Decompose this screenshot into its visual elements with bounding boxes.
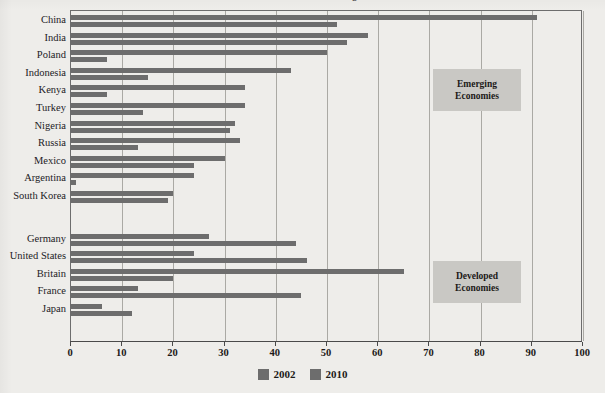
annotation-emerging-line2: Economies (455, 90, 499, 102)
gridline-90 (532, 11, 533, 341)
bar-chart: Global Ranking Emerging Economies Develo… (0, 0, 605, 393)
gridline-60 (378, 11, 379, 341)
legend-swatch-2002 (258, 369, 269, 380)
category-label-japan: Japan (0, 303, 66, 314)
bar-turkey-2002 (71, 110, 143, 115)
x-tick-label-20: 20 (157, 347, 187, 359)
bar-kenya-2002 (71, 92, 107, 97)
plot-area: Emerging Economies Developed Economies (70, 10, 582, 342)
bar-japan-2002 (71, 311, 132, 316)
x-tick-label-30: 30 (209, 347, 239, 359)
x-tick-0 (70, 342, 71, 346)
legend-item-2002: 2002 (258, 368, 296, 380)
category-label-france: France (0, 285, 66, 296)
category-label-argentina: Argentina (0, 172, 66, 183)
bar-china-2002 (71, 22, 337, 27)
bar-mexico-2002 (71, 163, 194, 168)
legend-label-2010: 2010 (326, 368, 348, 380)
x-tick-label-0: 0 (55, 347, 85, 359)
category-label-indonesia: Indonesia (0, 67, 66, 78)
annotation-emerging-economies: Emerging Economies (433, 69, 521, 111)
category-label-kenya: Kenya (0, 84, 66, 95)
x-tick-20 (172, 342, 173, 346)
chart-legend: 2002 2010 (0, 368, 605, 380)
bar-india-2010 (71, 33, 368, 38)
gridline-40 (276, 11, 277, 341)
bar-russia-2010 (71, 138, 240, 143)
category-label-poland: Poland (0, 49, 66, 60)
bar-united-states-2002 (71, 258, 307, 263)
bar-japan-2010 (71, 304, 102, 309)
x-tick-label-60: 60 (362, 347, 392, 359)
bar-united-states-2010 (71, 251, 194, 256)
gridline-50 (327, 11, 328, 341)
gridline-100 (583, 11, 584, 341)
legend-label-2002: 2002 (274, 368, 296, 380)
x-tick-40 (275, 342, 276, 346)
category-label-mexico: Mexico (0, 155, 66, 166)
x-tick-label-50: 50 (311, 347, 341, 359)
category-label-britain: Britain (0, 268, 66, 279)
x-tick-label-10: 10 (106, 347, 136, 359)
bar-south-korea-2010 (71, 191, 173, 196)
x-tick-70 (428, 342, 429, 346)
bar-mexico-2010 (71, 156, 225, 161)
x-tick-label-90: 90 (516, 347, 546, 359)
x-tick-label-40: 40 (260, 347, 290, 359)
x-tick-10 (121, 342, 122, 346)
bar-germany-2002 (71, 241, 296, 246)
category-label-india: India (0, 32, 66, 43)
category-label-united-states: United States (0, 250, 66, 261)
x-tick-label-100: 100 (567, 347, 597, 359)
category-label-germany: Germany (0, 233, 66, 244)
x-tick-100 (582, 342, 583, 346)
category-label-turkey: Turkey (0, 102, 66, 113)
category-label-nigeria: Nigeria (0, 120, 66, 131)
bar-germany-2010 (71, 234, 209, 239)
category-label-china: China (0, 14, 66, 25)
x-tick-30 (224, 342, 225, 346)
legend-swatch-2010 (310, 369, 321, 380)
bar-russia-2002 (71, 145, 138, 150)
x-tick-50 (326, 342, 327, 346)
bar-nigeria-2010 (71, 121, 235, 126)
x-tick-label-70: 70 (413, 347, 443, 359)
bar-argentina-2002 (71, 180, 76, 185)
bar-france-2002 (71, 293, 301, 298)
annotation-developed-line1: Developed (456, 270, 498, 282)
bar-kenya-2010 (71, 85, 245, 90)
bar-britain-2002 (71, 276, 173, 281)
chart-title: Global Ranking (70, 0, 582, 1)
gridline-30 (225, 11, 226, 341)
bar-britain-2010 (71, 269, 404, 274)
bar-indonesia-2002 (71, 75, 148, 80)
bar-france-2010 (71, 286, 138, 291)
annotation-developed-line2: Economies (455, 282, 499, 294)
gridline-70 (429, 11, 430, 341)
annotation-developed-economies: Developed Economies (433, 261, 521, 303)
bar-turkey-2010 (71, 103, 245, 108)
x-tick-60 (377, 342, 378, 346)
x-tick-label-80: 80 (465, 347, 495, 359)
x-tick-90 (531, 342, 532, 346)
legend-item-2010: 2010 (310, 368, 348, 380)
bar-nigeria-2002 (71, 128, 230, 133)
x-tick-80 (480, 342, 481, 346)
bar-india-2002 (71, 40, 347, 45)
bar-argentina-2010 (71, 173, 194, 178)
bar-poland-2002 (71, 57, 107, 62)
category-label-south-korea: South Korea (0, 190, 66, 201)
bar-china-2010 (71, 15, 537, 20)
bar-poland-2010 (71, 50, 327, 55)
bar-indonesia-2010 (71, 68, 291, 73)
category-label-russia: Russia (0, 137, 66, 148)
bar-south-korea-2002 (71, 198, 168, 203)
annotation-emerging-line1: Emerging (457, 78, 497, 90)
